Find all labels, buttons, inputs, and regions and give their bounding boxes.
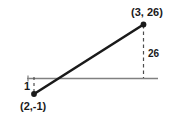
point-marker-lower [31, 91, 37, 97]
horizontal-distance-label: 1 [24, 81, 30, 92]
figure-canvas: (3, 26) (2,-1) 26 1 [0, 0, 174, 117]
vertical-distance-label: 26 [148, 49, 159, 59]
upper-point-label: (3, 26) [131, 7, 163, 18]
point-marker-upper [141, 22, 147, 28]
lower-point-label: (2,-1) [20, 101, 46, 112]
segment-through-points [34, 25, 144, 95]
